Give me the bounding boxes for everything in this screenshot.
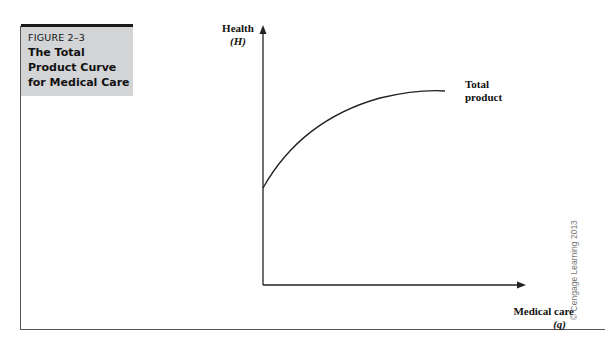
total-product-curve bbox=[263, 91, 445, 188]
y-axis-label-text: Health bbox=[222, 22, 254, 34]
chart-canvas bbox=[0, 0, 605, 342]
x-axis-label-text: Medical care bbox=[513, 305, 574, 317]
curve-label-line2: product bbox=[465, 91, 502, 103]
y-axis-label: Health (H) bbox=[216, 22, 260, 48]
copyright-notice: © Cengage Learning 2013 bbox=[569, 228, 581, 320]
x-axis-arrow-icon bbox=[517, 282, 526, 289]
y-axis-arrow-icon bbox=[260, 25, 267, 34]
y-axis-symbol: (H) bbox=[230, 35, 246, 47]
curve-label-line1: Total bbox=[465, 78, 489, 90]
curve-label: Total product bbox=[465, 78, 502, 104]
x-axis-label: Medical care (q) bbox=[510, 305, 574, 331]
